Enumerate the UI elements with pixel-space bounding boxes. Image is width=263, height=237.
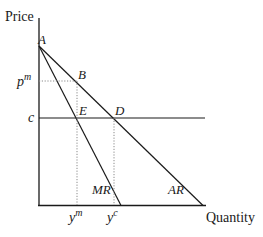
x-axis-label: Quantity (206, 210, 255, 225)
point-d-label: D (114, 103, 125, 118)
ym-label: ym (67, 207, 82, 225)
c-label: c (28, 110, 35, 125)
point-b-label: B (78, 67, 86, 82)
point-a-label: A (37, 32, 46, 47)
ar-label: AR (167, 182, 184, 197)
y-axis-label: Price (5, 9, 34, 24)
mr-label: MR (91, 182, 111, 197)
monopoly-diagram: Price Quantity A B E D pm c ym yc MR AR (0, 0, 263, 237)
yc-label: yc (105, 207, 118, 225)
point-e-label: E (78, 103, 87, 118)
pm-label: pm (16, 71, 31, 89)
